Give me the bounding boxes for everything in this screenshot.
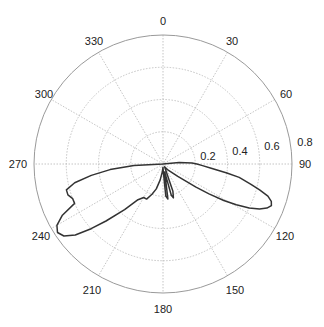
radial-label-0.6: 0.6 [264,140,279,152]
angle-label-30: 30 [226,35,238,47]
radial-label-0.8: 0.8 [297,136,312,148]
angle-label-90: 90 [299,158,311,170]
angle-label-0: 0 [160,15,166,27]
angle-label-240: 240 [32,230,50,242]
data-series-curve [57,163,272,236]
angle-label-120: 120 [276,230,294,242]
angle-label-60: 60 [280,88,292,100]
radial-label-0.4: 0.4 [232,145,247,157]
polar-plot-area: 0 30 60 90 120 150 180 210 240 270 300 3… [0,0,324,327]
radial-label-0.2: 0.2 [200,150,215,162]
angle-label-300: 300 [35,88,53,100]
angle-label-150: 150 [226,284,244,296]
angle-label-270: 270 [9,158,27,170]
angle-label-180: 180 [154,303,172,315]
angle-label-210: 210 [83,284,101,296]
polar-chart: 0 30 60 90 120 150 180 210 240 270 300 3… [0,0,324,327]
angle-label-330: 330 [85,35,103,47]
